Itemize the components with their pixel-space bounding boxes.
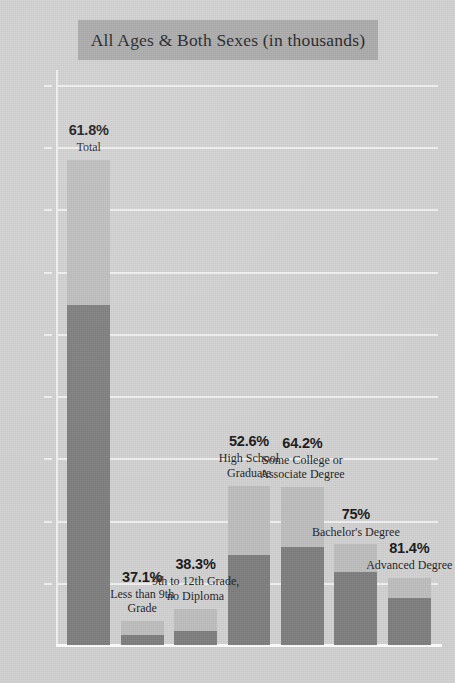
- y-tick-mark: [44, 458, 52, 460]
- gridline: [56, 334, 438, 336]
- bar-value-label: 75%: [308, 506, 404, 523]
- bar-segment-lower: [121, 635, 164, 645]
- bar-value-label: 61.8%: [41, 122, 137, 139]
- y-tick-mark: [44, 85, 52, 87]
- bar-category-label: Bachelor's Degree: [308, 525, 404, 540]
- bar-7[interactable]: [388, 578, 431, 645]
- y-tick-mark: [44, 209, 52, 211]
- gridline: [56, 272, 438, 274]
- bar-segment-lower: [334, 572, 377, 645]
- gridline: [56, 396, 438, 398]
- bar-segment-lower: [174, 631, 217, 645]
- bar-segment-upper: [228, 486, 271, 556]
- bar-segment-lower: [281, 547, 324, 645]
- gridline: [56, 85, 438, 87]
- y-tick-mark: [44, 334, 52, 336]
- bar-label-group: 75%Bachelor's Degree: [308, 506, 404, 539]
- bar-category-label: Total: [41, 140, 137, 155]
- gridline: [56, 209, 438, 211]
- bar-category-label: Advanced Degree: [361, 558, 455, 573]
- chart-title-band: All Ages & Both Sexes (in thousands): [78, 20, 378, 60]
- bar-segment-upper: [388, 578, 431, 598]
- bar-value-label: 64.2%: [254, 435, 350, 452]
- bar-label-group: 81.4%Advanced Degree: [361, 540, 455, 573]
- bar-category-label: Some College or Associate Degree: [254, 453, 350, 482]
- bar-chart: All Ages & Both Sexes (in thousands) 225…: [0, 0, 455, 683]
- bar-segment-lower: [388, 598, 431, 645]
- y-tick-mark: [44, 272, 52, 274]
- bar-value-label: 38.3%: [148, 556, 244, 573]
- y-tick-mark: [44, 583, 52, 585]
- bar-label-group: 64.2%Some College or Associate Degree: [254, 435, 350, 482]
- bar-2[interactable]: [121, 621, 164, 645]
- y-tick-mark: [44, 521, 52, 523]
- bar-category-label: 9th to 12th Grade, no Diploma: [148, 574, 244, 603]
- y-tick-mark: [44, 396, 52, 398]
- bar-label-group: 61.8%Total: [41, 122, 137, 155]
- chart-title: All Ages & Both Sexes (in thousands): [91, 30, 366, 51]
- y-axis-line: [56, 70, 58, 645]
- bar-value-label: 81.4%: [361, 540, 455, 557]
- bar-segment-upper: [121, 621, 164, 635]
- bar-label-group: 38.3%9th to 12th Grade, no Diploma: [148, 556, 244, 603]
- bar-segment-upper: [67, 160, 110, 306]
- plot-area: 225K200K175K150K125K100K75K50K25K 61.8%T…: [56, 70, 438, 645]
